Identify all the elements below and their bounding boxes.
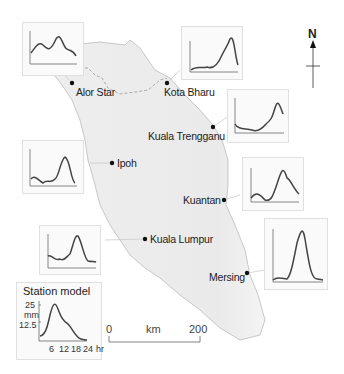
chart-kota-bharu (181, 26, 243, 80)
chart-kuantan (242, 157, 304, 211)
north-arrow-icon (306, 40, 320, 88)
chart-kuala-trengganu (227, 89, 289, 143)
scale-bar (109, 336, 200, 342)
station-label-alor-star: Alor Star (76, 86, 115, 98)
station-label-kota-bharu: Kota Bharu (164, 86, 215, 98)
chart-ipoh (22, 140, 84, 194)
compass-label: N (308, 27, 317, 41)
chart-alor-star (22, 22, 84, 76)
chart-kuala-lumpur (39, 225, 101, 275)
scale-start: 0 (106, 323, 112, 335)
scale-end: 200 (189, 323, 207, 335)
station-label-mersing: Mersing (209, 271, 245, 283)
station-label-kuala-lumpur: Kuala Lumpur (150, 233, 213, 245)
station-model-legend: Station model 25 mm 12.5 6 12 18 24 hr (16, 282, 102, 360)
station-label-kuala-trengganu: Kuala Trengganu (148, 130, 225, 142)
chart-mersing (264, 218, 328, 290)
scale-unit: km (146, 323, 161, 335)
station-label-ipoh: Ipoh (117, 157, 137, 169)
rainfall-map: Alor Star Kota Bharu Kuala Trengganu Ipo… (0, 0, 344, 374)
station-label-kuantan: Kuantan (183, 194, 221, 206)
